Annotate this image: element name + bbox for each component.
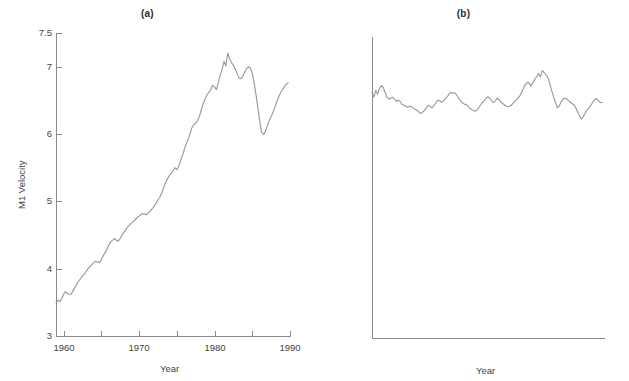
y-tick xyxy=(57,201,62,202)
y-tick xyxy=(57,336,62,337)
y-tick-label: 7.5 xyxy=(24,27,52,38)
panel-b-x-axis-label: Year xyxy=(476,365,495,376)
y-tick-label: 3 xyxy=(24,330,52,341)
y-tick xyxy=(57,67,62,68)
y-tick-label: 4 xyxy=(24,263,52,274)
panel-b-x-axis xyxy=(372,338,605,339)
panel-a-x-axis xyxy=(56,336,291,337)
panel-a-plot-area xyxy=(56,33,290,336)
panel-a-series-line xyxy=(56,33,290,336)
y-tick xyxy=(57,33,62,34)
panel-b: (b) .811.21.41.61.82 1960197019801990 M2… xyxy=(314,0,629,381)
panel-a-x-axis-label: Year xyxy=(160,363,179,374)
y-tick-label: 7 xyxy=(24,61,52,72)
y-tick xyxy=(57,134,62,135)
x-tick xyxy=(64,331,65,337)
x-tick-label: 1960 xyxy=(44,342,84,353)
panel-a: (a) 345677.5 1960197019801990 M1 Velocit… xyxy=(0,0,315,381)
panel-a-y-axis-label: M1 Velocity xyxy=(16,160,27,209)
y-tick xyxy=(57,269,62,270)
figure-two-panel-velocity: (a) 345677.5 1960197019801990 M1 Velocit… xyxy=(0,0,629,381)
x-tick-label: 1990 xyxy=(270,342,310,353)
panel-a-y-axis xyxy=(56,33,57,337)
x-tick xyxy=(252,331,253,337)
x-tick xyxy=(177,331,178,337)
panel-b-series-line xyxy=(372,37,604,338)
x-tick xyxy=(290,331,291,337)
x-tick-label: 1970 xyxy=(119,342,159,353)
x-tick xyxy=(101,331,102,337)
panel-a-title: (a) xyxy=(0,8,305,19)
x-tick xyxy=(215,331,216,337)
y-tick-label: 5 xyxy=(24,195,52,206)
panel-b-title: (b) xyxy=(306,8,621,19)
panel-b-y-axis xyxy=(372,37,373,339)
panel-b-plot-area xyxy=(372,37,604,338)
y-tick-label: 6 xyxy=(24,128,52,139)
x-tick-label: 1980 xyxy=(195,342,235,353)
x-tick xyxy=(139,331,140,337)
